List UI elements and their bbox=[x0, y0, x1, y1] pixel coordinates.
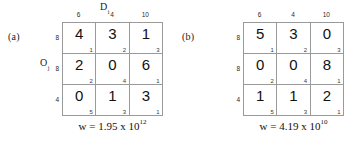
column-label: 4 bbox=[95, 11, 128, 18]
cell-value: 3 bbox=[277, 26, 309, 41]
cell-cost: 1 bbox=[156, 78, 159, 84]
cell-cost: 4 bbox=[123, 78, 126, 84]
cell-cost: 5 bbox=[270, 109, 273, 115]
grid-cell: 1 3 bbox=[96, 85, 129, 116]
cell-value: 3 bbox=[96, 26, 128, 41]
grid-cell: 1 3 bbox=[130, 23, 163, 54]
cell-cost: 1 bbox=[89, 47, 92, 53]
panel-b-column-labels: 6 4 10 bbox=[243, 11, 343, 18]
cell-cost: 2 bbox=[304, 47, 307, 53]
cell-value: 2 bbox=[311, 88, 343, 103]
grid-cell: 0 2 bbox=[244, 54, 277, 85]
cell-value: 1 bbox=[277, 88, 309, 103]
panel-a-caption: w = 1.95 x 1012 bbox=[62, 119, 163, 132]
column-label: 4 bbox=[276, 11, 309, 18]
row-label: 8 bbox=[231, 53, 241, 84]
grid-cell: 3 2 bbox=[96, 23, 129, 54]
row-label: 8 bbox=[50, 53, 60, 84]
grid-cell: 1 5 bbox=[244, 85, 277, 116]
column-label: 10 bbox=[129, 11, 162, 18]
caption-exponent: 10 bbox=[320, 118, 327, 126]
row-label: 4 bbox=[231, 84, 241, 115]
panel-b-grid: 5 1 3 2 0 3 0 2 0 4 8 1 1 5 1 3 bbox=[243, 22, 344, 116]
caption-prefix: w = 1.95 x 10 bbox=[79, 120, 140, 132]
column-label: 10 bbox=[310, 11, 343, 18]
cell-value: 5 bbox=[244, 26, 276, 41]
cell-cost: 3 bbox=[304, 109, 307, 115]
cell-cost: 1 bbox=[337, 109, 340, 115]
cell-value: 8 bbox=[311, 57, 343, 72]
cell-cost: 1 bbox=[270, 47, 273, 53]
caption-exponent: 12 bbox=[139, 118, 146, 126]
panel-b-caption: w = 4.19 x 1010 bbox=[243, 119, 344, 132]
grid-cell: 2 2 bbox=[63, 54, 96, 85]
cell-cost: 1 bbox=[337, 78, 340, 84]
row-axis-symbol: O bbox=[40, 57, 47, 68]
cell-value: 0 bbox=[311, 26, 343, 41]
cell-value: 1 bbox=[130, 26, 162, 41]
grid-cell: 0 4 bbox=[277, 54, 310, 85]
grid-cell: 0 5 bbox=[63, 85, 96, 116]
grid-cell: 8 1 bbox=[311, 54, 344, 85]
cell-value: 0 bbox=[244, 57, 276, 72]
grid-cell: 1 3 bbox=[277, 85, 310, 116]
caption-prefix: w = 4.19 x 10 bbox=[260, 120, 321, 132]
cell-value: 2 bbox=[63, 57, 95, 72]
cell-cost: 3 bbox=[123, 109, 126, 115]
grid-cell: 0 4 bbox=[96, 54, 129, 85]
panel-a-grid: 4 1 3 2 1 3 2 2 0 4 6 1 0 5 1 3 bbox=[62, 22, 163, 116]
cell-value: 6 bbox=[130, 57, 162, 72]
cell-cost: 3 bbox=[156, 47, 159, 53]
cell-cost: 5 bbox=[89, 109, 92, 115]
column-label: 6 bbox=[243, 11, 276, 18]
cell-value: 0 bbox=[96, 57, 128, 72]
cell-value: 4 bbox=[63, 26, 95, 41]
cell-cost: 4 bbox=[304, 78, 307, 84]
row-label: 8 bbox=[231, 22, 241, 53]
cell-value: 0 bbox=[277, 57, 309, 72]
panel-b-row-labels: 8 8 4 bbox=[231, 22, 241, 115]
panel-b-label: (b) bbox=[182, 31, 194, 42]
cell-cost: 3 bbox=[337, 47, 340, 53]
cell-value: 1 bbox=[244, 88, 276, 103]
cell-cost: 1 bbox=[156, 109, 159, 115]
grid-cell: 4 1 bbox=[63, 23, 96, 54]
cell-value: 0 bbox=[63, 88, 95, 103]
grid-cell: 3 2 bbox=[277, 23, 310, 54]
grid-cell: 0 3 bbox=[311, 23, 344, 54]
cell-value: 3 bbox=[130, 88, 162, 103]
panel-a: (a) Di Oj 6 4 10 8 8 4 4 1 3 2 1 3 2 2 bbox=[0, 0, 174, 142]
grid-cell: 5 1 bbox=[244, 23, 277, 54]
panel-b: (b) 6 4 10 8 8 4 5 1 3 2 0 3 0 2 0 4 bbox=[174, 0, 348, 142]
cell-cost: 2 bbox=[123, 47, 126, 53]
cell-cost: 2 bbox=[89, 78, 92, 84]
cell-value: 1 bbox=[96, 88, 128, 103]
panel-a-column-labels: 6 4 10 bbox=[62, 11, 162, 18]
grid-cell: 3 1 bbox=[130, 85, 163, 116]
cell-cost: 2 bbox=[270, 78, 273, 84]
column-label: 6 bbox=[62, 11, 95, 18]
panel-a-label: (a) bbox=[8, 31, 20, 42]
row-label: 8 bbox=[50, 22, 60, 53]
row-label: 4 bbox=[50, 84, 60, 115]
grid-cell: 2 1 bbox=[311, 85, 344, 116]
panel-a-row-labels: 8 8 4 bbox=[50, 22, 60, 115]
panel-a-row-axis-title: Oj bbox=[40, 57, 49, 70]
grid-cell: 6 1 bbox=[130, 54, 163, 85]
